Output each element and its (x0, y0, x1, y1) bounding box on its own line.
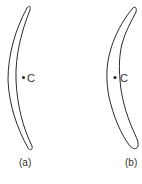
point-label-a: C (27, 72, 35, 84)
figure-a: C (a) (8, 6, 35, 168)
center-point-a (22, 76, 25, 79)
figure-b: C (b) (107, 7, 138, 168)
caption-b: (b) (125, 157, 137, 168)
point-label-b: C (120, 72, 128, 84)
center-point-b (113, 76, 116, 79)
diagram-canvas: C (a) C (b) (0, 0, 142, 184)
caption-a: (a) (19, 157, 31, 168)
